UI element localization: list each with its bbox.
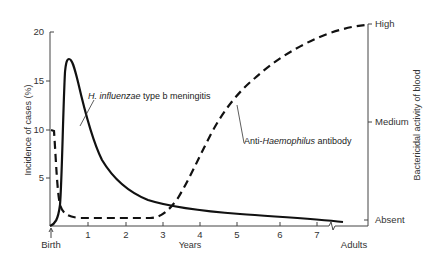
x-axis (49, 222, 368, 238)
y-axis-title-right: Bactericidal activity of blood (412, 69, 422, 180)
right-y-axis (364, 24, 372, 226)
y-tick-5: 5 (39, 172, 44, 183)
x-tick-6: 6 (277, 229, 282, 240)
x-tick-1: 1 (85, 229, 90, 240)
x-tick-4: 4 (197, 229, 202, 240)
y-axis-title-left: Incidence of cases (%) (23, 84, 33, 175)
meningitis-leader-line (80, 100, 94, 126)
x-axis-title: Years (179, 240, 202, 250)
antibody-label: Anti-Haemophilus antibody (244, 136, 352, 146)
y-tick-15: 15 (33, 75, 44, 86)
meningitis-label: H. influenzae type b meningitis (88, 91, 211, 101)
chart: 20 15 10 5 Incidence of cases (%) Birth … (0, 0, 440, 260)
x-tick-7: 7 (314, 229, 319, 240)
antibody-leader-line (237, 105, 244, 143)
x-tick-adults: Adults (341, 239, 368, 250)
antibody-activity-line (51, 25, 366, 218)
left-y-axis (46, 32, 54, 226)
x-tick-2: 2 (123, 229, 128, 240)
y-tick-medium: Medium (375, 116, 409, 127)
x-tick-birth: Birth (41, 239, 61, 250)
x-tick-3: 3 (160, 229, 165, 240)
y-tick-10: 10 (33, 124, 44, 135)
y-tick-absent: Absent (375, 214, 405, 225)
y-tick-20: 20 (33, 26, 44, 37)
x-tick-5: 5 (234, 229, 239, 240)
y-tick-high: High (375, 18, 395, 29)
